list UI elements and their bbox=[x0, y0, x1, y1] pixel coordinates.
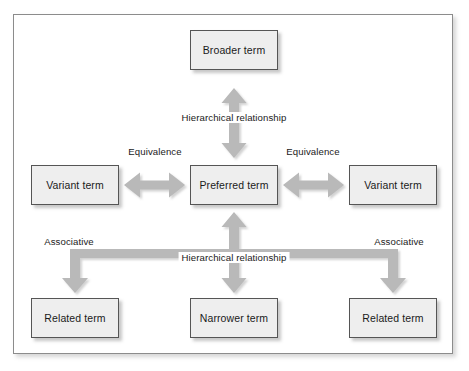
edge-label-equivalence-left: Equivalence bbox=[128, 146, 181, 157]
term-box-label: Preferred term bbox=[199, 179, 268, 191]
term-box-related-term-right[interactable]: Related term bbox=[349, 298, 437, 338]
arrow-preferred-variantright bbox=[283, 173, 344, 198]
edge-label-associative-right: Associative bbox=[374, 236, 424, 247]
term-box-broader-term[interactable]: Broader term bbox=[190, 30, 278, 70]
term-box-variant-term-left[interactable]: Variant term bbox=[31, 165, 119, 205]
term-box-label: Variant term bbox=[46, 179, 104, 191]
edge-label-hierarchical-bottom: Hierarchical relationship bbox=[179, 252, 290, 263]
term-box-narrower-term[interactable]: Narrower term bbox=[190, 298, 278, 338]
term-box-label: Related term bbox=[44, 312, 105, 324]
edge-label-associative-left: Associative bbox=[44, 236, 94, 247]
edge-label-equivalence-right: Equivalence bbox=[286, 146, 339, 157]
edge-label-hierarchical-top: Hierarchical relationship bbox=[179, 112, 290, 123]
arrow-variantleft-preferred bbox=[124, 173, 185, 198]
arrow-broader-preferred bbox=[222, 88, 247, 158]
term-box-label: Broader term bbox=[203, 44, 265, 56]
term-box-variant-term-right[interactable]: Variant term bbox=[349, 165, 437, 205]
term-box-label: Related term bbox=[362, 312, 423, 324]
diagram-stage: Broader term Variant term Preferred term… bbox=[0, 0, 469, 371]
term-box-label: Narrower term bbox=[200, 312, 268, 324]
term-box-label: Variant term bbox=[364, 179, 422, 191]
term-box-preferred-term[interactable]: Preferred term bbox=[190, 165, 278, 205]
term-box-related-term-left[interactable]: Related term bbox=[31, 298, 119, 338]
